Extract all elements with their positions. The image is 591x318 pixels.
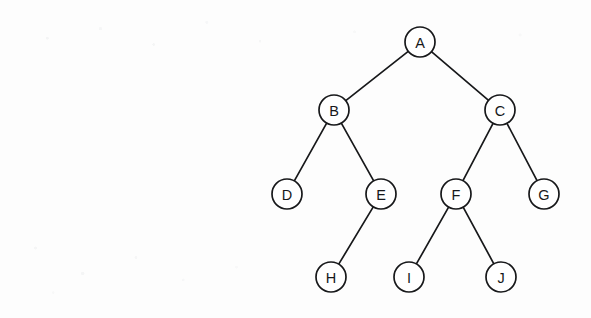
- tree-node-g[interactable]: G: [529, 179, 559, 209]
- node-label-e: E: [376, 187, 386, 203]
- tree-edge-c-g: [507, 123, 537, 180]
- tree-edge-a-b: [346, 51, 408, 100]
- tree-edge-f-i: [416, 207, 448, 264]
- node-label-b: B: [329, 103, 339, 119]
- tree-node-f[interactable]: F: [441, 179, 471, 209]
- tree-edge-a-c: [431, 52, 488, 101]
- tree-edge-e-h: [339, 207, 374, 264]
- tree-node-i[interactable]: I: [394, 262, 424, 292]
- node-label-j: J: [497, 270, 504, 286]
- tree-node-c[interactable]: C: [485, 95, 515, 125]
- node-label-a: A: [415, 35, 425, 51]
- tree-node-a[interactable]: A: [405, 27, 435, 57]
- node-label-c: C: [495, 103, 505, 119]
- node-label-h: H: [326, 270, 336, 286]
- node-layer: ABCDEFGHIJ: [272, 27, 559, 292]
- tree-edge-f-j: [463, 207, 494, 264]
- node-label-d: D: [282, 187, 292, 203]
- tree-edge-b-d: [294, 123, 326, 181]
- tree-node-h[interactable]: H: [316, 262, 346, 292]
- tree-edge-b-e: [341, 123, 373, 181]
- tree-node-e[interactable]: E: [366, 179, 396, 209]
- tree-node-b[interactable]: B: [319, 95, 349, 125]
- tree-edge-c-f: [463, 123, 493, 180]
- tree-canvas: ABCDEFGHIJ: [0, 0, 591, 318]
- node-label-g: G: [538, 187, 549, 203]
- edge-layer: [294, 51, 537, 264]
- node-label-f: F: [452, 187, 461, 203]
- binary-tree-diagram: ABCDEFGHIJ: [0, 0, 591, 318]
- tree-node-j[interactable]: J: [486, 262, 516, 292]
- node-label-i: I: [407, 270, 411, 286]
- tree-node-d[interactable]: D: [272, 179, 302, 209]
